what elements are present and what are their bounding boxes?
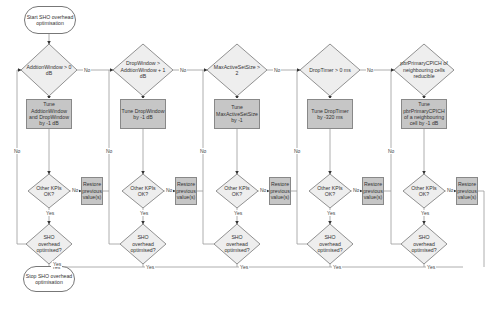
- kpi-check-3-label: Other KPIs OK?: [221, 184, 253, 198]
- no-label-next-3: No: [273, 67, 281, 73]
- decision-5-label-text: pbrPrimaryCPICH of neighbouring cells re…: [400, 60, 448, 79]
- restore-box-4: Restore previous value(s): [362, 177, 384, 205]
- start-terminal-text: Start SHO overhead optimisation: [25, 14, 75, 27]
- tune-box-1-text: Tune AddtionWindow and DropWindow by -1 …: [27, 101, 71, 127]
- no-label-kpi-4: No: [352, 187, 360, 193]
- no-label-next-2: No: [179, 67, 187, 73]
- no-label-loop-3: No: [199, 148, 207, 154]
- tune-box-5: Tune pbrPrimaryCPICH of a neighbouring c…: [401, 99, 447, 129]
- restore-box-4-text: Restore previous value(s): [363, 181, 383, 200]
- no-label-next-4: No: [366, 67, 374, 73]
- tune-box-2: Tune DropWindow by -1 dB: [120, 99, 166, 129]
- decision-1-label-text: AddtionWindow > 0 dB: [25, 64, 73, 77]
- optimised-check-1-label-text: SHO overhead optimised?: [32, 234, 66, 253]
- kpi-check-5-label: Other KPIs OK?: [408, 184, 440, 198]
- yes-label-1b: Yes: [45, 210, 55, 216]
- decision-3-label: MaxActiveSetSize > 2: [213, 58, 261, 82]
- kpi-check-1-label: Other KPIs OK?: [33, 184, 65, 198]
- tune-box-3: Tune MaxActiveSetSize by -1: [214, 99, 260, 129]
- tune-box-3-text: Tune MaxActiveSetSize by -1: [215, 104, 259, 123]
- no-label-kpi-3: No: [259, 187, 267, 193]
- optimised-check-4-label-text: SHO overhead optimised?: [313, 234, 347, 253]
- kpi-check-5-label-text: Other KPIs OK?: [408, 185, 440, 198]
- yes-label-3b: Yes: [233, 210, 243, 216]
- yes-label-5c: Yes: [426, 264, 436, 270]
- tune-box-4-text: Tune DropTimer by -320 ms: [308, 108, 352, 121]
- yes-label-4b: Yes: [326, 210, 336, 216]
- tune-box-4: Tune DropTimer by -320 ms: [307, 99, 353, 129]
- yes-label-stop: Yes: [52, 261, 62, 267]
- tune-box-1: Tune AddtionWindow and DropWindow by -1 …: [26, 99, 72, 129]
- optimised-check-5-label-text: SHO overhead optimised?: [407, 234, 441, 253]
- no-label-kpi-1: No: [71, 187, 79, 193]
- restore-box-5: Restore previous value(s): [456, 177, 478, 205]
- restore-box-3: Restore previous value(s): [269, 177, 291, 205]
- kpi-check-4-label-text: Other KPIs OK?: [314, 185, 346, 198]
- no-label-loop-1: No: [13, 148, 21, 154]
- stop-terminal: Stop SHO overhead optimisation: [23, 266, 75, 292]
- decision-4-label: DropTimer > 0 ms: [306, 58, 354, 82]
- stop-terminal-text: Stop SHO overhead optimisation: [24, 273, 74, 286]
- no-label-loop-2: No: [105, 148, 113, 154]
- optimised-check-2-label: SHO overhead optimised?: [126, 234, 160, 254]
- decision-5-label: pbrPrimaryCPICH of neighbouring cells re…: [400, 58, 448, 82]
- kpi-check-4-label: Other KPIs OK?: [314, 184, 346, 198]
- kpi-check-2-label: Other KPIs OK?: [127, 184, 159, 198]
- optimised-check-4-label: SHO overhead optimised?: [313, 234, 347, 254]
- tune-box-5-text: Tune pbrPrimaryCPICH of a neighbouring c…: [402, 101, 446, 127]
- no-label-kpi-5: No: [446, 187, 454, 193]
- kpi-check-1-label-text: Other KPIs OK?: [33, 185, 65, 198]
- restore-box-1-text: Restore previous value(s): [82, 181, 102, 200]
- yes-label-2c: Yes: [145, 264, 155, 270]
- no-label-next-1: No: [83, 67, 91, 73]
- restore-box-3-text: Restore previous value(s): [270, 181, 290, 200]
- restore-box-2: Restore previous value(s): [175, 177, 197, 205]
- no-label-loop-5: No: [387, 148, 395, 154]
- yes-label-2b: Yes: [139, 210, 149, 216]
- optimised-check-2-label-text: SHO overhead optimised?: [126, 234, 160, 253]
- optimised-check-3-label-text: SHO overhead optimised?: [220, 234, 254, 253]
- yes-label-3c: Yes: [239, 264, 249, 270]
- decision-1-label: AddtionWindow > 0 dB: [25, 58, 73, 82]
- tune-box-2-text: Tune DropWindow by -1 dB: [121, 108, 165, 121]
- decision-4-label-text: DropTimer > 0 ms: [309, 67, 350, 73]
- kpi-check-2-label-text: Other KPIs OK?: [127, 185, 159, 198]
- decision-3-label-text: MaxActiveSetSize > 2: [213, 64, 261, 77]
- yes-label-5b: Yes: [420, 210, 430, 216]
- yes-label-4c: Yes: [332, 264, 342, 270]
- restore-box-2-text: Restore previous value(s): [176, 181, 196, 200]
- decision-2-label-text: DropWindow > AddtionWindow + 1 dB: [119, 60, 167, 79]
- start-terminal: Start SHO overhead optimisation: [24, 6, 76, 34]
- kpi-check-3-label-text: Other KPIs OK?: [221, 185, 253, 198]
- restore-box-5-text: Restore previous value(s): [457, 181, 477, 200]
- optimised-check-3-label: SHO overhead optimised?: [220, 234, 254, 254]
- no-label-loop-4: No: [293, 148, 301, 154]
- no-label-kpi-2: No: [165, 187, 173, 193]
- decision-2-label: DropWindow > AddtionWindow + 1 dB: [119, 58, 167, 82]
- optimised-check-1-label: SHO overhead optimised?: [32, 234, 66, 254]
- restore-box-1: Restore previous value(s): [81, 177, 103, 205]
- optimised-check-5-label: SHO overhead optimised?: [407, 234, 441, 254]
